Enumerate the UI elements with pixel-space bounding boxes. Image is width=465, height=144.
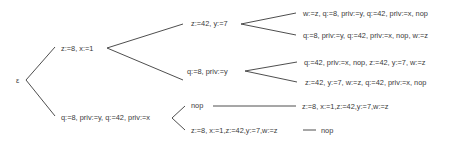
node-a: z:=8, x:=1 <box>61 44 93 53</box>
leaf-a2b: z:=42, y:=7, w:=z, q:=42, priv:=x, nop <box>305 78 426 87</box>
edge-a-a2 <box>107 48 183 80</box>
edge-b-b1 <box>172 106 185 118</box>
root-node: ε <box>16 76 19 85</box>
edge-a-a1 <box>107 24 183 48</box>
leaf-a1b: q:=8, priv:=y, q:=42, priv:=x, nop, w:=z <box>303 31 428 40</box>
tree-edges <box>0 0 465 144</box>
node-b1: nop <box>191 101 203 110</box>
node-b: q:=8, priv:=y, q:=42, priv:=x <box>61 113 150 122</box>
edge-a2-a2b <box>245 71 297 82</box>
edge-a1-a1a <box>241 13 296 24</box>
leaf-b1a: z:=8, x:=1,z:=42,y:=7,w:=z <box>302 102 388 111</box>
edge-root-b <box>26 80 55 116</box>
edge-a1-a1b <box>241 24 296 35</box>
leaf-b2a: nop <box>321 126 333 135</box>
edge-b-b2 <box>172 118 185 130</box>
node-a2: q:=8, priv:=y <box>187 67 228 76</box>
node-b2: z:=8, x:=1,z:=42,y:=7,w:=z <box>191 126 277 135</box>
edge-root-a <box>26 47 55 80</box>
node-a1: z:=42, y:=7 <box>191 19 228 28</box>
edge-a2-a2a <box>245 62 297 71</box>
leaf-a1a: w:=z, q:=8, priv:=y, q:=42, priv:=x, nop <box>303 9 428 18</box>
leaf-a2a: q:=42, priv:=x, nop, z:=42, y:=7, w:=z <box>304 58 425 67</box>
